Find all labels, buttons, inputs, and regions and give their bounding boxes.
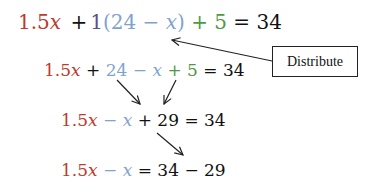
distribute-callout: Distribute — [272, 46, 358, 77]
step-arrow-right — [164, 80, 176, 104]
arrows-layer — [0, 0, 379, 194]
callout-label: Distribute — [287, 54, 343, 70]
step-arrow-subtract — [157, 133, 183, 155]
callout-arrow — [172, 40, 272, 61]
step-arrow-left — [117, 80, 140, 104]
